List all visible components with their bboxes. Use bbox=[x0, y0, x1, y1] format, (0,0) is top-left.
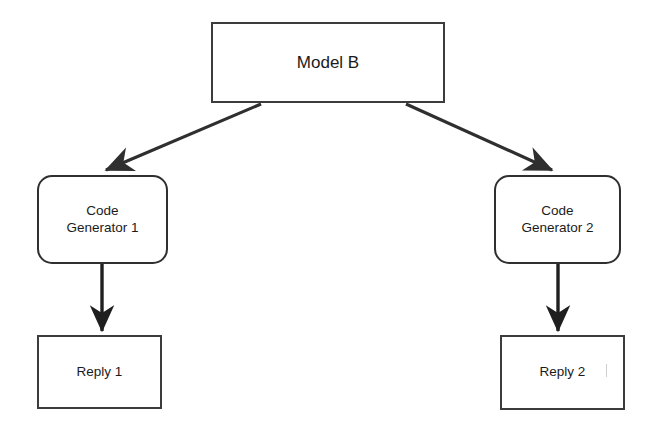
node-model-b-label: Model B bbox=[297, 52, 359, 73]
scan-artifact-mark bbox=[606, 364, 607, 377]
edge-model-b-to-code-generator-2 bbox=[406, 104, 552, 170]
node-code-generator-2-label: Code Generator 2 bbox=[521, 203, 593, 237]
node-reply-2-label: Reply 2 bbox=[540, 364, 586, 381]
node-code-generator-1-label: Code Generator 1 bbox=[66, 203, 138, 237]
node-reply-1[interactable]: Reply 1 bbox=[37, 335, 162, 409]
diagram-canvas: Model B Code Generator 1 Code Generator … bbox=[0, 0, 658, 432]
node-code-generator-2[interactable]: Code Generator 2 bbox=[494, 175, 621, 264]
node-reply-1-label: Reply 1 bbox=[77, 364, 123, 381]
node-model-b[interactable]: Model B bbox=[211, 22, 445, 103]
node-code-generator-1[interactable]: Code Generator 1 bbox=[37, 175, 168, 264]
edge-model-b-to-code-generator-1 bbox=[106, 104, 261, 170]
